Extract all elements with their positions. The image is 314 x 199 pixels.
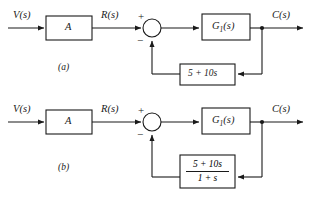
caption-b: (b) — [58, 163, 69, 173]
forward-block-arg-a: (s) — [223, 20, 234, 31]
forward-block-g-b: G — [212, 114, 220, 125]
error-label-b: R(s) — [101, 104, 119, 115]
summing-junction-a — [143, 19, 161, 37]
block-diagram-figure: V(s) A R(s) + − G1(s) 5 + 10s C(s) (a) V… — [0, 0, 314, 199]
diagram-b-graphics — [8, 108, 303, 188]
sum-minus-sign-a: − — [137, 35, 143, 46]
forward-block-label-a: G1(s) — [212, 21, 234, 34]
feedback-block-fraction-b: 5 + 10s 1 + s — [186, 159, 229, 184]
feedback-denominator-b: 1 + s — [186, 172, 229, 183]
diagram-canvas — [0, 0, 314, 199]
sum-plus-sign-a: + — [138, 11, 144, 22]
summing-junction-b — [143, 113, 161, 131]
forward-block-g-a: G — [212, 20, 220, 31]
sum-plus-sign-b: + — [138, 105, 144, 116]
error-label-a: R(s) — [101, 10, 119, 21]
feedback-numerator-b: 5 + 10s — [186, 159, 229, 170]
feedback-block-label-a: 5 + 10s — [188, 69, 217, 79]
forward-block-label-b: G1(s) — [212, 115, 234, 128]
gain-block-label-a: A — [65, 22, 71, 33]
gain-block-label-b: A — [65, 116, 71, 127]
output-label-a: C(s) — [272, 10, 290, 21]
caption-a: (a) — [58, 63, 69, 73]
input-label-a: V(s) — [13, 10, 31, 21]
diagram-a-graphics — [8, 14, 303, 85]
input-label-b: V(s) — [13, 104, 31, 115]
output-label-b: C(s) — [272, 104, 290, 115]
sum-minus-sign-b: − — [137, 129, 143, 140]
forward-block-arg-b: (s) — [223, 114, 234, 125]
